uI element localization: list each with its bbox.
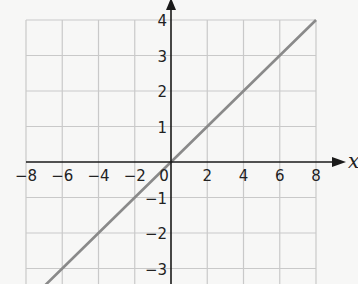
x-tick-label: 0 — [159, 167, 169, 185]
x-tick-label: 8 — [311, 167, 321, 185]
y-tick-label: 3 — [157, 48, 167, 66]
x-axis-arrow-icon — [332, 157, 346, 167]
y-tick-label: −1 — [145, 190, 167, 208]
y-tick-label: 2 — [157, 83, 167, 101]
x-tick-label: −8 — [15, 167, 37, 185]
line-chart: x −8−6−4−202468−3−2−11234 — [0, 0, 358, 284]
y-tick-label: −3 — [145, 261, 167, 279]
x-axis-label: x — [348, 149, 358, 173]
x-tick-label: −4 — [87, 167, 109, 185]
x-tick-label: −6 — [51, 167, 73, 185]
y-axis-arrow-icon — [166, 0, 176, 10]
x-tick-label: 6 — [275, 167, 285, 185]
x-tick-label: −2 — [124, 167, 146, 185]
y-tick-label: −2 — [145, 225, 167, 243]
y-tick-label: 4 — [157, 12, 167, 30]
y-tick-label: 1 — [157, 119, 167, 137]
x-tick-label: 4 — [239, 167, 249, 185]
tick-labels: −8−6−4−202468−3−2−11234 — [15, 12, 321, 279]
x-tick-label: 2 — [202, 167, 212, 185]
